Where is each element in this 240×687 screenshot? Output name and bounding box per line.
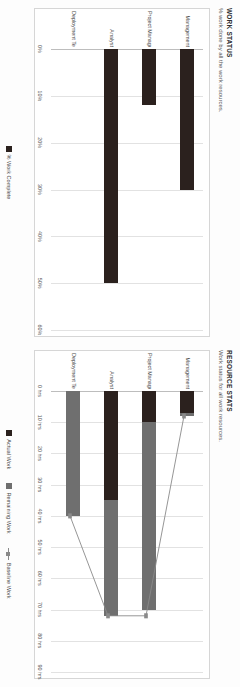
chart-category-row: Deployment Team [52, 391, 84, 672]
axis-tick-label: 0 hrs [37, 385, 43, 397]
chart-category-row: Project Manager [128, 49, 160, 330]
bar-segment [66, 391, 80, 516]
axis-tick-label: 10% [37, 90, 43, 101]
resource-stats-plot-area: 0 hrs10 hrs20 hrs30 hrs40 hrs50 hrs60 hr… [51, 391, 203, 672]
work-status-legend: % Work Complete [6, 0, 12, 345]
axis-tick-label: 60% [37, 325, 43, 336]
category-label: Management [178, 353, 198, 389]
category-label: Project Manager [140, 353, 160, 389]
bar-segment [180, 391, 194, 413]
resource-stats-subtitle: Work status for all work resources. [218, 350, 224, 442]
work-status-chart-panel: WORK STATUS % work done by all the work … [0, 0, 240, 345]
chart-category-row: Analyst [90, 49, 122, 330]
legend-label: Actual Work [6, 439, 12, 469]
category-label: Project Manager [140, 11, 160, 47]
resource-stats-chart-panel: RESOURCE STATS Work status for all work … [0, 342, 240, 687]
axis-tick-label: 0% [37, 45, 43, 53]
resource-stats-titles: RESOURCE STATS Work status for all work … [218, 350, 233, 442]
work-status-titles: WORK STATUS % work done by all the work … [218, 8, 233, 112]
work-status-card: WORK STATUS % work done by all the work … [0, 0, 240, 345]
axis-tick-label: 90 hrs [37, 665, 43, 680]
category-label: Analyst [102, 353, 122, 389]
axis-tick-label: 60 hrs [37, 571, 43, 586]
bar-segment [142, 422, 156, 609]
legend-item: % Work Complete [6, 146, 12, 200]
gridline [51, 672, 203, 673]
bar-segment [104, 49, 118, 283]
axis-tick-label: 30% [37, 184, 43, 195]
legend-label: Remaining Work [6, 492, 12, 533]
legend-line-icon [9, 548, 10, 560]
report-page: WORK STATUS % work done by all the work … [0, 0, 240, 687]
work-status-plot-area: 0%10%20%30%40%50%60%ManagementProject Ma… [51, 49, 203, 330]
bar-segment [104, 391, 118, 500]
work-status-title: WORK STATUS [226, 8, 233, 112]
legend-item: Baseline Work [6, 548, 12, 599]
axis-tick-label: 20 hrs [37, 446, 43, 461]
bar-segment [142, 49, 156, 105]
axis-tick-label: 30 hrs [37, 477, 43, 492]
legend-label: Baseline Work [6, 563, 12, 599]
legend-label: % Work Complete [6, 155, 12, 200]
category-label: Deployment Team [64, 11, 84, 47]
resource-stats-title: RESOURCE STATS [226, 350, 233, 442]
bar-segment [180, 413, 194, 416]
resource-stats-card: RESOURCE STATS Work status for all work … [0, 342, 240, 687]
axis-tick-label: 20% [37, 137, 43, 148]
bar-segment [104, 500, 118, 616]
axis-tick-label: 40% [37, 231, 43, 242]
chart-category-row: Management [166, 49, 198, 330]
chart-category-row: Analyst [90, 391, 122, 672]
chart-category-row: Project Manager [128, 391, 160, 672]
axis-tick-label: 50 hrs [37, 540, 43, 555]
work-status-subtitle: % work done by all the work resources. [218, 8, 224, 112]
legend-item: Remaining Work [6, 483, 12, 533]
bar-segment [180, 49, 194, 190]
resource-stats-legend: Actual WorkRemaining WorkBaseline Work [6, 342, 12, 687]
work-status-plot-frame: 0%10%20%30%40%50%60%ManagementProject Ma… [34, 8, 210, 337]
axis-tick-label: 10 hrs [37, 415, 43, 430]
bar-segment [142, 391, 156, 422]
legend-swatch-icon [6, 146, 12, 152]
resource-stats-plot-frame: 0 hrs10 hrs20 hrs30 hrs40 hrs50 hrs60 hr… [34, 350, 210, 679]
legend-swatch-icon [6, 430, 12, 436]
legend-item: Actual Work [6, 430, 12, 469]
axis-tick-label: 80 hrs [37, 633, 43, 648]
category-label: Management [178, 11, 198, 47]
category-label: Deployment Team [64, 353, 84, 389]
axis-tick-label: 70 hrs [37, 602, 43, 617]
chart-category-row: Deployment Team [52, 49, 84, 330]
axis-tick-label: 50% [37, 278, 43, 289]
gridline [51, 330, 203, 331]
category-label: Analyst [102, 11, 122, 47]
axis-tick-label: 40 hrs [37, 508, 43, 523]
chart-category-row: Management [166, 391, 198, 672]
legend-swatch-icon [6, 483, 12, 489]
